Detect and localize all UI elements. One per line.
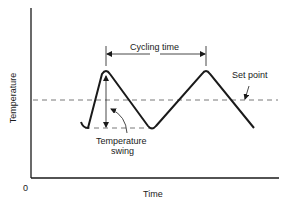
- temperature-swing-label-2: swing: [111, 146, 134, 156]
- temperature-swing-label: Temperature: [96, 136, 147, 146]
- x-axis-label: Time: [143, 189, 163, 199]
- temperature-swing-leader: [111, 109, 127, 133]
- set-point-leader: [245, 86, 249, 99]
- diagram-canvas: [0, 0, 288, 210]
- y-axis-label: Temperature: [8, 73, 18, 124]
- cycling-time-label: Cycling time: [130, 42, 179, 52]
- origin-label: 0: [23, 183, 28, 193]
- set-point-label: Set point: [232, 70, 268, 80]
